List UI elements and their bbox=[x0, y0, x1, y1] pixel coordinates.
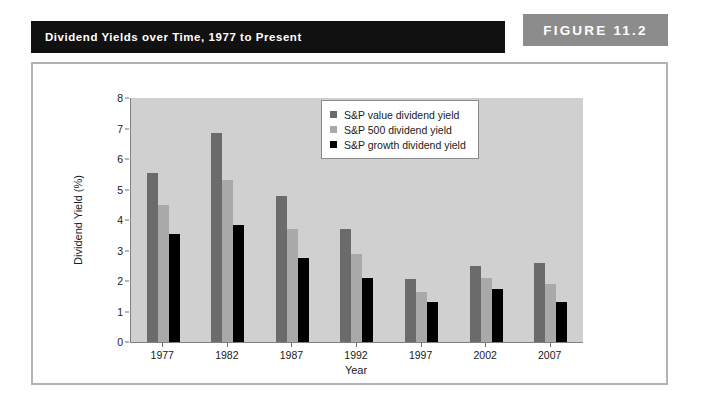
y-tick-mark bbox=[125, 220, 129, 221]
bar bbox=[276, 196, 287, 342]
x-tick-mark bbox=[485, 343, 486, 347]
bar-group bbox=[131, 98, 196, 342]
legend-swatch-icon bbox=[330, 126, 337, 133]
bar bbox=[481, 278, 492, 342]
bar-group bbox=[518, 98, 583, 342]
x-tick-mark bbox=[550, 343, 551, 347]
y-tick-mark bbox=[125, 311, 129, 312]
x-axis-ticks: 1977198219871992199720022007 bbox=[130, 343, 582, 363]
y-axis-ticks: 012345678 bbox=[93, 98, 129, 342]
x-tick-label: 1977 bbox=[151, 349, 174, 361]
x-tick-mark bbox=[356, 343, 357, 347]
chart-legend: S&P value dividend yieldS&P 500 dividend… bbox=[321, 100, 479, 159]
x-tick-label: 1987 bbox=[280, 349, 303, 361]
y-tick-mark bbox=[125, 342, 129, 343]
x-tick-label: 1982 bbox=[215, 349, 238, 361]
y-tick-label: 2 bbox=[117, 275, 123, 287]
legend-label: S&P 500 dividend yield bbox=[344, 124, 452, 136]
x-tick-mark bbox=[291, 343, 292, 347]
x-tick-label: 2002 bbox=[473, 349, 496, 361]
legend-item: S&P growth dividend yield bbox=[330, 137, 466, 152]
y-tick-label: 6 bbox=[117, 153, 123, 165]
y-tick-label: 7 bbox=[117, 123, 123, 135]
bar bbox=[351, 254, 362, 342]
x-tick-label: 2007 bbox=[538, 349, 561, 361]
bar bbox=[158, 205, 169, 342]
figure-number-badge: FIGURE 11.2 bbox=[523, 14, 668, 46]
figure-caption-text: Dividend Yields over Time, 1977 to Prese… bbox=[31, 31, 302, 43]
y-tick-mark bbox=[125, 250, 129, 251]
bar bbox=[222, 180, 233, 342]
bar bbox=[362, 278, 373, 342]
figure-caption-bar: Dividend Yields over Time, 1977 to Prese… bbox=[31, 21, 505, 53]
bar bbox=[534, 263, 545, 342]
y-tick-label: 4 bbox=[117, 214, 123, 226]
y-tick-mark bbox=[125, 281, 129, 282]
legend-swatch-icon bbox=[330, 111, 337, 118]
bar bbox=[416, 292, 427, 342]
legend-label: S&P growth dividend yield bbox=[344, 139, 466, 151]
figure-frame: Dividend Yield (%) 012345678 19771982198… bbox=[31, 62, 668, 385]
x-tick-mark bbox=[162, 343, 163, 347]
bar bbox=[427, 302, 438, 342]
y-tick-mark bbox=[125, 128, 129, 129]
y-axis-title: Dividend Yield (%) bbox=[72, 98, 86, 342]
legend-item: S&P value dividend yield bbox=[330, 107, 466, 122]
x-tick-mark bbox=[227, 343, 228, 347]
y-tick-label: 5 bbox=[117, 184, 123, 196]
y-tick-label: 0 bbox=[117, 336, 123, 348]
bar-group bbox=[196, 98, 261, 342]
bar bbox=[405, 279, 416, 342]
y-tick-label: 8 bbox=[117, 92, 123, 104]
bar bbox=[340, 229, 351, 342]
y-tick-mark bbox=[125, 189, 129, 190]
x-axis-title: Year bbox=[130, 364, 582, 376]
y-tick-mark bbox=[125, 159, 129, 160]
x-tick-label: 1992 bbox=[344, 349, 367, 361]
legend-item: S&P 500 dividend yield bbox=[330, 122, 466, 137]
bar bbox=[556, 302, 567, 342]
bar bbox=[211, 133, 222, 342]
y-tick-label: 3 bbox=[117, 245, 123, 257]
bar bbox=[492, 289, 503, 342]
bar bbox=[287, 229, 298, 342]
bar bbox=[545, 284, 556, 342]
x-tick-mark bbox=[421, 343, 422, 347]
legend-swatch-icon bbox=[330, 141, 337, 148]
bar bbox=[233, 225, 244, 342]
bar bbox=[298, 258, 309, 342]
y-tick-label: 1 bbox=[117, 306, 123, 318]
bar-chart: Dividend Yield (%) 012345678 19771982198… bbox=[33, 64, 670, 387]
y-tick-mark bbox=[125, 98, 129, 99]
legend-label: S&P value dividend yield bbox=[344, 109, 459, 121]
bar bbox=[147, 173, 158, 342]
bar bbox=[470, 266, 481, 342]
x-tick-label: 1997 bbox=[409, 349, 432, 361]
bar-group bbox=[260, 98, 325, 342]
figure-number-text: FIGURE 11.2 bbox=[543, 23, 647, 38]
bar bbox=[169, 234, 180, 342]
